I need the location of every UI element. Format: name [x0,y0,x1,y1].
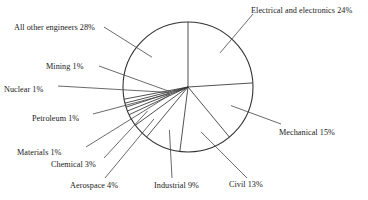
pie-label-nuclear: Nuclear 1% [4,85,43,94]
pie-label-mining: Mining 1% [46,62,84,71]
pie-label-industrial: Industrial 9% [154,181,199,190]
pie-label-aerospace: Aerospace 4% [70,181,118,190]
pie-chart-figure: Electrical and electronics 24% Mechanica… [0,0,368,200]
pie-label-chemical: Chemical 3% [51,160,96,169]
pie-label-civil: Civil 13% [229,180,263,189]
pie-label-electrical-and-electronics: Electrical and electronics 24% [251,6,352,15]
pie-label-mechanical: Mechanical 15% [279,128,335,137]
pie-label-all-other-engineers: All other engineers 28% [14,23,95,32]
pie-label-petroleum: Petroleum 1% [32,114,79,123]
pie-label-materials: Materials 1% [17,148,61,157]
